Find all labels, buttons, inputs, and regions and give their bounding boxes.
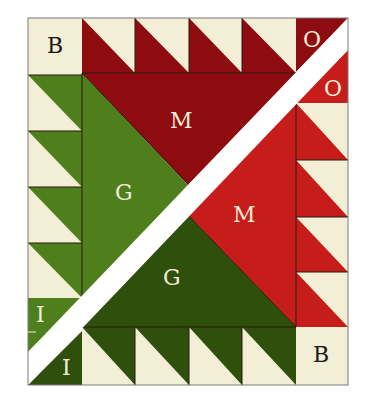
- label-green-lower: G: [163, 265, 181, 290]
- quilt-block-diagram: B O O M G M G I I B: [0, 0, 368, 416]
- label-green-upper: G: [115, 180, 133, 205]
- label-outer-corner-lower: O: [324, 76, 342, 101]
- top-border-triangles: [82, 18, 296, 73]
- label-corner-top-left: B: [47, 33, 63, 58]
- label-inner-corner-upper: I: [36, 302, 45, 327]
- bottom-border-triangles: [82, 327, 296, 385]
- label-inner-corner-lower: I: [62, 355, 71, 380]
- label-main-upper: M: [170, 108, 193, 133]
- right-border-triangles: [296, 103, 348, 327]
- label-corner-bottom-right: B: [313, 342, 329, 367]
- label-main-lower: M: [233, 202, 256, 227]
- label-outer-corner-upper: O: [303, 27, 321, 52]
- left-border-triangles: [28, 73, 82, 298]
